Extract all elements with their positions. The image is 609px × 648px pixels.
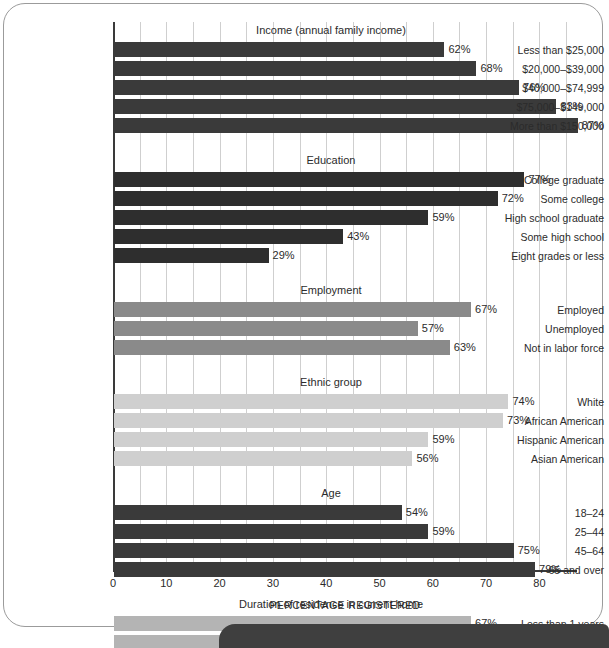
category-label: Some high school — [497, 231, 609, 243]
category-label: 65 and over — [497, 564, 609, 576]
category-label: 18–24 — [497, 507, 609, 519]
bar — [114, 505, 402, 520]
bar — [114, 61, 476, 76]
bar — [114, 413, 503, 428]
category-label: Employed — [497, 304, 609, 316]
bar-value-label: 63% — [454, 341, 476, 353]
bar — [114, 42, 444, 57]
category-label: 25–44 — [497, 526, 609, 538]
bar — [114, 229, 343, 244]
x-axis-title: PERCENTAGE REGISTERED — [113, 599, 577, 611]
category-label: 45–64 — [497, 545, 609, 557]
bar — [114, 340, 450, 355]
bar-value-label: 29% — [273, 249, 295, 261]
section-title: Income (annual family income) — [256, 24, 406, 36]
bar — [114, 248, 269, 263]
bar — [114, 432, 428, 447]
category-label: Eight grades or less — [497, 250, 609, 262]
category-label: Not in labor force — [497, 342, 609, 354]
category-label: $75,000–$149,000 — [497, 101, 609, 113]
section-title: Education — [307, 154, 356, 166]
bar-value-label: 54% — [406, 506, 428, 518]
category-label: African American — [497, 415, 609, 427]
bar — [114, 321, 418, 336]
bar — [114, 210, 428, 225]
section-title: Age — [321, 487, 341, 499]
category-label: $40,000–$74,999 — [497, 82, 609, 94]
bar-value-label: 59% — [432, 525, 454, 537]
bar — [114, 543, 514, 558]
category-label: Unemployed — [497, 323, 609, 335]
category-label: Asian American — [497, 453, 609, 465]
x-tick-label: 40 — [320, 577, 332, 589]
bar-value-label: 57% — [422, 322, 444, 334]
category-label: High school graduate — [497, 212, 609, 224]
bar — [114, 562, 535, 577]
section-title: Employment — [300, 284, 361, 296]
bar — [114, 80, 519, 95]
bar-value-label: 56% — [416, 452, 438, 464]
bar — [114, 302, 471, 317]
x-tick-label: 60 — [427, 577, 439, 589]
section-title: Ethnic group — [300, 376, 362, 388]
bar — [114, 451, 412, 466]
category-label: More than $150,000 — [497, 120, 609, 132]
category-label: Hispanic American — [497, 434, 609, 446]
category-label: Less than $25,000 — [497, 44, 609, 56]
bar-value-label: 67% — [475, 303, 497, 315]
category-label: White — [497, 396, 609, 408]
x-tick-label: 30 — [267, 577, 279, 589]
bar — [114, 524, 428, 539]
bar-value-label: 62% — [448, 43, 470, 55]
bar — [114, 99, 556, 114]
bar — [114, 191, 498, 206]
bar-value-label: 59% — [432, 433, 454, 445]
bottom-accent-bar — [219, 624, 609, 648]
x-tick-label: 10 — [160, 577, 172, 589]
category-label: Some college — [497, 193, 609, 205]
x-tick-label: 70 — [480, 577, 492, 589]
chart-page: 01020304050607080 Income (annual family … — [0, 0, 609, 648]
category-label: $20,000–$39,000 — [497, 63, 609, 75]
category-label: College graduate — [497, 174, 609, 186]
bar-value-label: 43% — [347, 230, 369, 242]
x-tick-label: 80 — [533, 577, 545, 589]
x-tick-label: 50 — [373, 577, 385, 589]
x-tick-label: 0 — [110, 577, 116, 589]
x-tick-label: 20 — [213, 577, 225, 589]
bar-value-label: 59% — [432, 211, 454, 223]
bar — [114, 394, 508, 409]
bar — [114, 172, 524, 187]
